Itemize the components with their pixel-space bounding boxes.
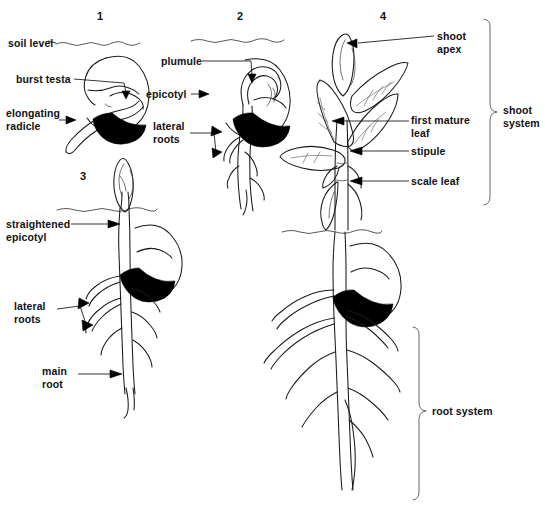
arrow-scale-leaf xyxy=(350,177,362,185)
stage-4-node-a xyxy=(337,163,347,164)
stage-2-main-root-tip xyxy=(243,190,247,215)
stage-4-scale-leaf-right xyxy=(348,184,362,220)
label-scale-leaf: scale leaf xyxy=(411,175,459,188)
stage-2-cotyledon-crescent xyxy=(233,113,290,147)
stage-3-lateral-root-5 xyxy=(101,328,122,355)
soil-line-stage-4 xyxy=(282,230,382,234)
label-main-root: main root xyxy=(42,365,67,391)
stage-3-lateral-root-2b xyxy=(92,304,121,331)
label-burst-testa: burst testa xyxy=(16,73,71,86)
stage-4-seed-lobe xyxy=(351,268,389,279)
stage-4-root-l1 xyxy=(272,290,334,321)
stage-4-scale-leaf-vein xyxy=(329,192,334,218)
stage-1-drawing xyxy=(66,56,149,153)
stage-3-scale-leaf-c xyxy=(120,176,126,191)
label-shoot-apex: shoot apex xyxy=(437,30,466,56)
leader-shoot-apex xyxy=(358,36,434,43)
arrow-main-root xyxy=(110,370,122,378)
stage-4-vein-ll-b xyxy=(303,153,308,163)
arrow-lateral-roots-3a xyxy=(78,298,89,309)
stage-2-drawing xyxy=(224,59,290,215)
stage-3-stem-right xyxy=(129,208,135,394)
stage-4-stem-right xyxy=(347,120,348,230)
label-root-system: root system xyxy=(432,405,493,418)
stage-3-lateral-root-6 xyxy=(133,340,152,367)
leader-lateral-roots-3 xyxy=(57,306,80,309)
leader-plumule xyxy=(202,61,252,76)
stage-3-lateral-root-1b xyxy=(89,282,120,306)
stage-3-stem-left xyxy=(119,208,125,394)
stage-4-vein-ul-mid xyxy=(320,98,334,140)
arrow-straightened-epicotyl xyxy=(108,220,120,228)
stage-3-lateral-root-4 xyxy=(132,312,157,338)
stage-4-shoot-drawing xyxy=(280,34,408,230)
stage-3-scale-leaf-a xyxy=(119,164,124,196)
label-elongating-radicle: elongating radicle xyxy=(6,107,60,133)
stage-4-root-l2b xyxy=(271,324,334,369)
label-straightened-epicotyl: straightened epicotyl xyxy=(6,218,70,244)
arrow-stipule xyxy=(350,147,362,155)
stage-4-vein-ul-b xyxy=(319,123,331,132)
stage-4-root-drawing xyxy=(264,232,401,490)
stage-4-vein-ur-a xyxy=(364,90,373,106)
arrow-epicotyl xyxy=(199,90,209,98)
stage-4-root-l4 xyxy=(302,392,337,427)
stage-1-burst-testa-flap xyxy=(88,86,139,94)
stage-3-shoot-base xyxy=(121,192,129,208)
soil-line-stage-1 xyxy=(56,42,140,46)
root-system-bracket xyxy=(413,327,426,500)
stage-4-node-b xyxy=(336,180,348,181)
stage-4-root-l1b xyxy=(277,296,334,329)
stage-3-drawing xyxy=(86,159,182,419)
stage-4-vein-mr-mid xyxy=(354,112,386,144)
system-brackets xyxy=(413,19,497,500)
stage-3-seed-lobe xyxy=(137,248,172,258)
arrow-burst-testa xyxy=(122,91,130,99)
stage-4-apex-scale-a xyxy=(340,40,345,80)
arrow-lateral-roots-3c xyxy=(82,320,93,331)
stage-4-root-stem-right xyxy=(345,232,353,490)
arrow-first-mature-leaf xyxy=(332,117,344,125)
label-shoot-system: shoot system xyxy=(503,104,540,130)
stage-4-root-l3 xyxy=(286,352,335,399)
arrow-plumule xyxy=(248,74,256,83)
stage-4-cotyledon-crescent xyxy=(333,290,393,327)
stage-3-main-root-tip xyxy=(124,388,134,418)
stage-number-1: 1 xyxy=(97,10,103,22)
diagram-canvas: 1 2 4 3 soil level burst testa elongatin… xyxy=(0,0,545,512)
stage-4-vein-ll-mid xyxy=(291,155,332,158)
stage-2-lateral-root-4 xyxy=(250,178,264,200)
stage-4-root-stem-left xyxy=(333,232,342,490)
stage-number-2: 2 xyxy=(237,10,243,22)
label-plumule: plumule xyxy=(161,55,202,68)
stage-number-3: 3 xyxy=(80,170,86,182)
label-soil-level: soil level xyxy=(8,37,53,50)
stage-3-lateral-root-1 xyxy=(86,276,120,299)
stage-4-root-r2 xyxy=(347,350,400,392)
stage-4-leaf-upper-right xyxy=(351,63,409,113)
soil-line-stage-2 xyxy=(191,39,284,43)
stage-number-4: 4 xyxy=(380,10,386,22)
stage-3-shoot-tip-outline xyxy=(114,159,133,213)
shoot-system-bracket xyxy=(484,19,497,205)
label-stipule: stipule xyxy=(411,145,446,158)
arrow-shoot-apex xyxy=(347,39,357,48)
stage-2-plumule-leaflet-a xyxy=(267,84,272,106)
stage-1-hilum-notch xyxy=(105,104,111,107)
arrow-lateral-roots-2a xyxy=(211,126,222,136)
stage-4-root-r3 xyxy=(348,388,388,420)
label-first-mature-leaf: first mature leaf xyxy=(411,114,470,140)
stage-4-vein-ll-a xyxy=(314,152,320,163)
stage-2-seed-lobe xyxy=(254,98,286,109)
label-lateral-roots-stage-3: lateral roots xyxy=(14,300,46,326)
soil-line-stage-3 xyxy=(57,208,157,212)
stage-1-cotyledon-crescent xyxy=(93,113,146,144)
stage-2-lateral-root-2 xyxy=(245,152,257,176)
arrow-lateral-roots-2c xyxy=(212,148,222,158)
stage-3-cotyledon-crescent xyxy=(120,268,175,302)
label-lateral-roots-stage-2: lateral roots xyxy=(153,120,185,146)
stage-4-stipule-right xyxy=(348,166,361,188)
label-epicotyl: epicotyl xyxy=(146,88,186,101)
arrow-elongating-radicle xyxy=(66,116,76,124)
diagram-artwork xyxy=(0,0,545,512)
